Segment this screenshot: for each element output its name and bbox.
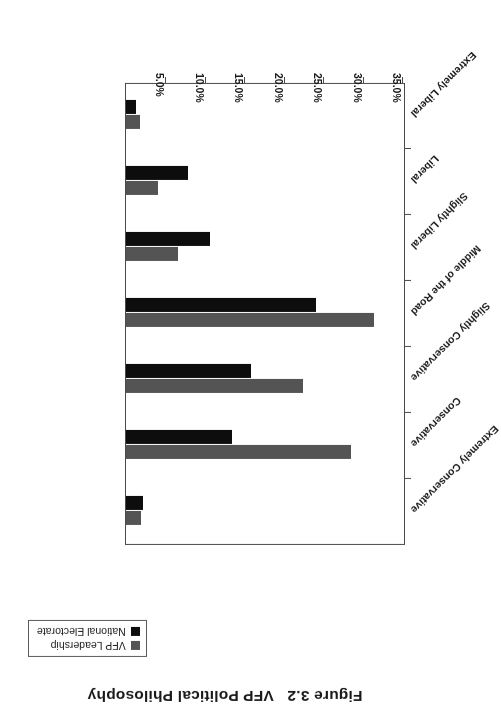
bar-national-electorate — [126, 101, 136, 115]
bar-group — [126, 214, 404, 280]
legend-swatch-national-electorate-icon — [131, 627, 140, 636]
bar-vfp-leadership — [126, 512, 141, 526]
value-axis-label: 10.0% — [194, 73, 206, 103]
category-label: Liberal — [409, 153, 442, 186]
legend-item-national-electorate: National Electorate — [37, 626, 140, 637]
category-tick — [405, 412, 411, 413]
value-axis-label: 25.0% — [312, 73, 324, 103]
legend-label-vfp-leadership: VFP Leadership — [51, 640, 126, 651]
bar-vfp-leadership — [126, 182, 158, 196]
bar-national-electorate — [126, 299, 316, 313]
bar-vfp-leadership — [126, 248, 178, 262]
category-tick — [405, 148, 411, 149]
category-label: Extremely Conservative — [409, 424, 501, 517]
value-axis-label: 5.0% — [154, 73, 166, 97]
bar-national-electorate — [126, 431, 232, 445]
value-axis-label: 20.0% — [273, 73, 285, 103]
bar-national-electorate — [126, 167, 188, 181]
category-tick — [405, 346, 411, 347]
bar-national-electorate — [126, 365, 251, 379]
value-axis-label: 30.0% — [352, 73, 364, 103]
bar-group — [126, 346, 404, 412]
bar-national-electorate — [126, 497, 143, 511]
page-title: Figure 3.2 VFP Political Philosophy — [0, 687, 450, 705]
plot-area — [125, 83, 405, 545]
category-tick — [405, 280, 411, 281]
value-axis-label: 35.0% — [391, 73, 403, 103]
category-label: Extremely Liberal — [409, 50, 479, 120]
category-label: Middle of the Road — [409, 243, 484, 318]
bar-group — [126, 280, 404, 346]
category-label: Slightly Conservative — [409, 300, 493, 384]
bar-group — [126, 412, 404, 478]
legend-swatch-vfp-leadership-icon — [131, 641, 140, 650]
value-axis-label: 15.0% — [233, 73, 245, 103]
category-tick — [405, 478, 411, 479]
bar-national-electorate — [126, 233, 210, 247]
bar-vfp-leadership — [126, 380, 303, 394]
legend-item-vfp-leadership: VFP Leadership — [37, 640, 140, 651]
chart-legend: VFP Leadership National Electorate — [28, 620, 147, 657]
bar-group — [126, 148, 404, 214]
category-label: Slightly Liberal — [409, 191, 471, 253]
category-label: Conservative — [409, 395, 464, 450]
legend-label-national-electorate: National Electorate — [37, 626, 126, 637]
bar-vfp-leadership — [126, 116, 140, 130]
bar-vfp-leadership — [126, 446, 351, 460]
value-axis: 35.0%30.0%25.0%20.0%15.0%10.0%5.0% — [125, 82, 405, 83]
bar-group — [126, 478, 404, 544]
bar-vfp-leadership — [126, 314, 374, 328]
category-tick — [405, 214, 411, 215]
